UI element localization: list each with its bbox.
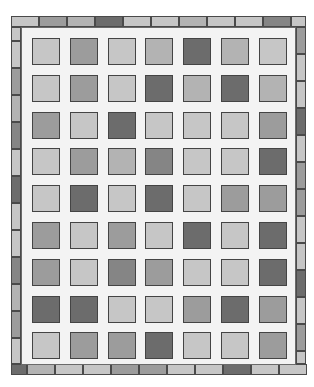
- border-top-segment: [11, 16, 39, 27]
- border-corner-right: [296, 351, 306, 364]
- quilt-block: [259, 222, 287, 249]
- quilt-block: [108, 296, 136, 323]
- border-right-segment: [296, 162, 306, 189]
- border-right-segment: [296, 189, 306, 216]
- quilt-block: [183, 148, 211, 175]
- quilt-block: [32, 222, 60, 249]
- border-right-segment: [296, 81, 306, 108]
- quilt-block: [221, 222, 249, 249]
- border-top-segment: [39, 16, 67, 27]
- quilt-block: [145, 75, 173, 102]
- quilt-block: [32, 296, 60, 323]
- quilt-block: [259, 259, 287, 286]
- border-right-segment: [296, 27, 306, 54]
- quilt-block: [70, 332, 98, 359]
- border-left-segment: [11, 284, 21, 311]
- quilt-block: [183, 259, 211, 286]
- quilt-block: [70, 222, 98, 249]
- quilt-block: [32, 112, 60, 139]
- quilt-block: [145, 38, 173, 65]
- border-top-segment: [123, 16, 151, 27]
- border-corner-bottom-left: [11, 364, 27, 375]
- quilt-block: [221, 75, 249, 102]
- quilt-block: [221, 332, 249, 359]
- quilt-block: [183, 112, 211, 139]
- quilt-block: [145, 296, 173, 323]
- quilt-block: [221, 259, 249, 286]
- quilt: [11, 16, 306, 375]
- quilt-block: [145, 112, 173, 139]
- quilt-block: [108, 185, 136, 212]
- border-corner-left: [11, 27, 21, 41]
- quilt-block: [221, 38, 249, 65]
- border-bottom-segment: [223, 364, 251, 375]
- quilt-block: [70, 75, 98, 102]
- border-right-segment: [296, 135, 306, 162]
- border-top-segment: [67, 16, 95, 27]
- border-right-segment: [296, 324, 306, 351]
- border-left-segment: [11, 95, 21, 122]
- border-left-segment: [11, 176, 21, 203]
- border-right-segment: [296, 297, 306, 324]
- border-bottom-segment: [111, 364, 139, 375]
- border-bottom-segment: [83, 364, 111, 375]
- border-left-segment: [11, 68, 21, 95]
- quilt-block: [70, 296, 98, 323]
- border-bottom-segment: [55, 364, 83, 375]
- border-left-segment: [11, 257, 21, 284]
- border-left-segment: [11, 230, 21, 257]
- quilt-block: [183, 222, 211, 249]
- quilt-block: [221, 112, 249, 139]
- quilt-block: [32, 38, 60, 65]
- border-top-segment: [207, 16, 235, 27]
- border-right-segment: [296, 108, 306, 135]
- quilt-block: [108, 259, 136, 286]
- quilt-block: [183, 38, 211, 65]
- quilt-block: [145, 222, 173, 249]
- border-bottom-segment: [167, 364, 195, 375]
- border-right-segment: [296, 54, 306, 81]
- quilt-block: [259, 75, 287, 102]
- quilt-block: [70, 185, 98, 212]
- border-bottom-segment: [27, 364, 55, 375]
- quilt-block: [70, 38, 98, 65]
- quilt-block: [32, 332, 60, 359]
- quilt-block: [32, 185, 60, 212]
- border-top-segment: [263, 16, 291, 27]
- border-top-segment: [235, 16, 263, 27]
- quilt-block: [259, 38, 287, 65]
- border-bottom-segment: [251, 364, 279, 375]
- quilt-block: [108, 112, 136, 139]
- quilt-block: [259, 112, 287, 139]
- quilt-block: [108, 332, 136, 359]
- border-right-segment: [296, 270, 306, 297]
- border-bottom-segment: [139, 364, 167, 375]
- quilt-block: [108, 75, 136, 102]
- quilt-block: [32, 75, 60, 102]
- border-corner-top-right: [291, 16, 306, 27]
- quilt-block: [70, 259, 98, 286]
- quilt-block: [221, 296, 249, 323]
- border-left-segment: [11, 311, 21, 338]
- quilt-block: [183, 75, 211, 102]
- border-left-segment: [11, 122, 21, 149]
- quilt-block: [70, 112, 98, 139]
- quilt-block: [32, 148, 60, 175]
- border-top-segment: [179, 16, 207, 27]
- quilt-block: [70, 148, 98, 175]
- border-bottom-segment: [279, 364, 307, 375]
- quilt-block: [221, 185, 249, 212]
- quilt-block: [145, 148, 173, 175]
- quilt-block: [259, 148, 287, 175]
- quilt-block: [259, 185, 287, 212]
- border-top-segment: [95, 16, 123, 27]
- border-left-segment: [11, 149, 21, 176]
- quilt-block: [183, 332, 211, 359]
- quilt-block: [145, 332, 173, 359]
- border-left-segment: [11, 203, 21, 230]
- border-bottom-segment: [195, 364, 223, 375]
- border-left-segment: [11, 338, 21, 364]
- border-top-segment: [151, 16, 179, 27]
- quilt-block: [108, 148, 136, 175]
- quilt-block: [145, 185, 173, 212]
